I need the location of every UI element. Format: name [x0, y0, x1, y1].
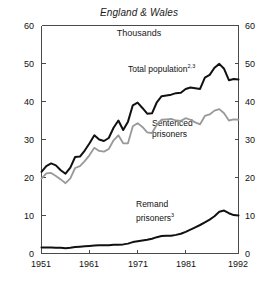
plot-area [0, 0, 278, 282]
chart-container: England & Wales Thousands 60 50 40 30 20… [0, 0, 278, 282]
